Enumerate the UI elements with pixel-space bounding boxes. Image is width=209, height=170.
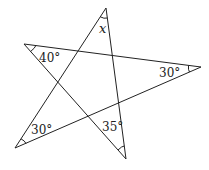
angle-arc-right xyxy=(188,65,189,72)
angle-label-bottom-left: 30° xyxy=(31,123,52,137)
line-top-to-bottom-left xyxy=(15,8,106,148)
angle-label-left: 40° xyxy=(39,51,60,65)
angle-arc-left xyxy=(31,46,36,52)
angle-arc-top xyxy=(100,17,107,19)
line-top-to-bottom xyxy=(106,8,126,159)
angle-arc-bottom-left xyxy=(21,139,26,144)
angle-arc-bottom xyxy=(118,146,124,150)
star-diagram: x 40° 30° 30° 35° xyxy=(0,0,209,170)
angle-label-bottom: 35° xyxy=(102,120,123,134)
angle-label-right: 30° xyxy=(159,66,180,80)
angle-label-top: x xyxy=(99,21,107,36)
